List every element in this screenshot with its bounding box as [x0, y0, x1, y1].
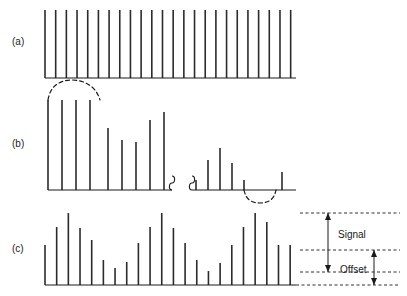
- panel-b-label: (b): [12, 138, 24, 149]
- panel-c: (c): [12, 213, 296, 285]
- panel-c-bars: [45, 213, 290, 285]
- panel-b-bars: [48, 100, 282, 190]
- panel-b: (b): [12, 80, 296, 203]
- axis-break-icon: [169, 176, 194, 190]
- envelope-top-dashed-arc: [48, 80, 100, 100]
- panel-a: (a): [12, 10, 296, 78]
- signal-label: Signal: [338, 229, 366, 240]
- figure-container: (a) (b) (c): [0, 0, 407, 296]
- panel-a-label: (a): [12, 36, 24, 47]
- offset-dimension-arrow: [371, 250, 377, 285]
- signal-dimension-arrow: [325, 213, 331, 272]
- envelope-bottom-dashed-arc: [244, 190, 276, 203]
- panel-a-bars: [45, 10, 291, 78]
- figure-svg: (a) (b) (c): [0, 0, 407, 296]
- signal-offset-annotation: Signal Offset: [296, 213, 400, 285]
- offset-label: Offset: [340, 264, 367, 275]
- panel-c-label: (c): [12, 243, 24, 254]
